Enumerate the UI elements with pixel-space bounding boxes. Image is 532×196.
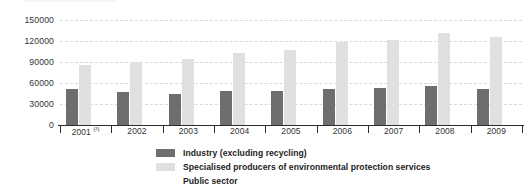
bar	[374, 88, 386, 125]
legend-label-industry: Industry (excluding recycling)	[183, 148, 307, 158]
legend-label-specialised-producers: Specialised producers of environmental p…	[183, 162, 430, 172]
bar	[66, 89, 78, 125]
bar	[323, 89, 335, 125]
legend-item-industry: Industry (excluding recycling)	[156, 146, 516, 159]
bar-group	[425, 20, 466, 125]
x-axis-label: 2004	[214, 126, 265, 136]
y-axis-labels: 0300006000090000120000150000	[0, 20, 54, 125]
bar	[271, 91, 283, 125]
legend-swatch-public-sector	[156, 177, 175, 185]
bar-group	[117, 20, 158, 125]
y-tick-label: 120000	[24, 36, 54, 46]
bar	[117, 92, 129, 125]
x-axis-label: 2009	[471, 126, 522, 136]
bar	[336, 42, 348, 125]
x-axis-label: 2001 (²)	[60, 126, 111, 137]
x-axis-label: 2005	[265, 126, 316, 136]
bar-group	[66, 20, 107, 125]
bar	[182, 59, 194, 126]
y-tick-label: 0	[49, 120, 54, 130]
x-axis-label: 2007	[368, 126, 419, 136]
y-tick-label: 30000	[29, 99, 54, 109]
legend-item-specialised-producers: Specialised producers of environmental p…	[156, 160, 516, 173]
x-axis-label: 2008	[419, 126, 470, 136]
legend-item-public-sector: Public sector	[156, 174, 516, 187]
bar	[477, 89, 489, 125]
bar-group	[169, 20, 210, 125]
bar-group	[220, 20, 261, 125]
x-axis-tick	[522, 125, 523, 133]
bar	[387, 40, 399, 125]
bar-group	[323, 20, 364, 125]
bar-group	[271, 20, 312, 125]
chart-legend: Industry (excluding recycling) Specialis…	[156, 146, 516, 188]
bar	[220, 91, 232, 125]
bar	[490, 37, 502, 125]
x-axis-label: 2003	[163, 126, 214, 136]
bar-chart: 0300006000090000120000150000 2001 (²)200…	[0, 0, 532, 196]
bar	[438, 33, 450, 125]
bar	[233, 53, 245, 125]
x-axis-label: 2006	[317, 126, 368, 136]
bar	[79, 65, 91, 125]
bar	[130, 62, 142, 125]
legend-swatch-specialised-producers	[156, 163, 175, 171]
clipped-title-remnant	[24, 0, 116, 3]
bar	[284, 50, 296, 125]
plot-area	[60, 20, 522, 125]
y-tick-label: 150000	[24, 15, 54, 25]
y-tick-label: 90000	[29, 57, 54, 67]
bar-group	[374, 20, 415, 125]
bar	[169, 94, 181, 125]
legend-swatch-industry	[156, 149, 175, 157]
legend-label-public-sector: Public sector	[183, 176, 238, 186]
bar-group	[477, 20, 518, 125]
y-tick-label: 60000	[29, 78, 54, 88]
bar	[425, 86, 437, 125]
x-axis-label: 2002	[111, 126, 162, 136]
